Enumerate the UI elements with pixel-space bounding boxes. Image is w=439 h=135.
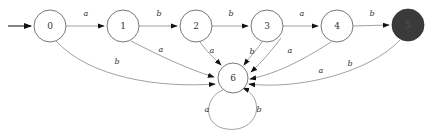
automaton-canvas: 0 1 2 3 4 5 6 a b b a b b <box>0 0 439 135</box>
state-label-5: 5 <box>405 20 411 30</box>
edge-label-s3-s4: a <box>300 9 305 18</box>
edge-label-self-loop-a: a <box>205 105 210 114</box>
edge-label-s2-s3: b <box>228 9 233 18</box>
edge-label-s3-s6-alt: a <box>288 46 293 55</box>
edge-label-s3-s6: b <box>249 47 254 56</box>
edge-label-self-loop-b: b <box>256 105 261 114</box>
self-loop-s6 <box>209 88 257 129</box>
edge-label-s4-s6: a <box>319 66 324 75</box>
state-label-4: 4 <box>334 21 340 31</box>
edge-label-s1-s2: b <box>156 9 161 18</box>
state-label-1: 1 <box>120 21 126 31</box>
edge-s0-s6 <box>56 41 215 85</box>
edge-s5-s6 <box>249 40 400 85</box>
state-label-3: 3 <box>264 21 270 31</box>
edge-label-s0-s1: a <box>84 9 89 18</box>
state-label-0: 0 <box>47 21 53 31</box>
state-node-5[interactable]: 5 <box>392 9 424 41</box>
automaton-diagram: 0 1 2 3 4 5 6 a b b a b b <box>0 0 439 135</box>
edge-s3-s6-alt <box>251 38 281 72</box>
edge-label-s1-s6: a <box>159 45 164 54</box>
state-label-6: 6 <box>230 73 236 83</box>
state-node-6[interactable]: 6 <box>218 63 248 93</box>
edge-label-s2-s6: a <box>210 46 215 55</box>
state-node-3[interactable]: 3 <box>251 10 283 42</box>
edge-label-s4-s5: b <box>369 9 374 18</box>
state-node-4[interactable]: 4 <box>321 10 353 42</box>
edge-label-s0-s6: b <box>114 57 119 66</box>
state-node-0[interactable]: 0 <box>34 10 66 42</box>
edge-label-s5-s6: b <box>347 59 352 68</box>
state-label-2: 2 <box>193 21 199 31</box>
state-node-2[interactable]: 2 <box>180 10 212 42</box>
edge-s1-s6 <box>131 41 214 77</box>
state-node-1[interactable]: 1 <box>107 10 139 42</box>
edge-s4-s5 <box>353 25 389 26</box>
